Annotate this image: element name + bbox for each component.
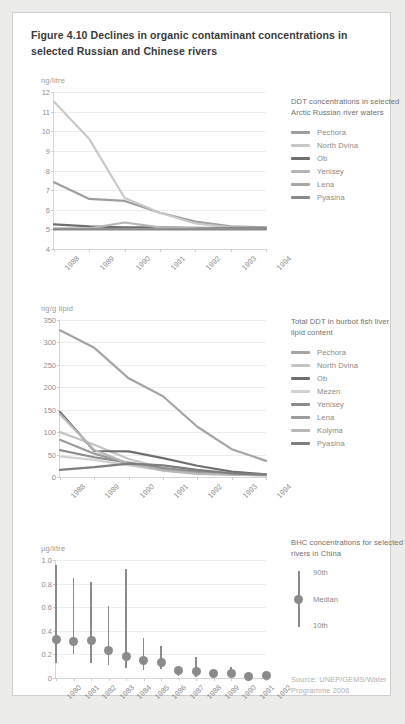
- median-marker: [227, 669, 236, 678]
- grid-line: [56, 607, 266, 608]
- legend-item-label: Pyasina: [317, 439, 345, 448]
- x-tick-label: 1994: [275, 482, 293, 500]
- legend-item-label: Ob: [317, 374, 327, 383]
- y-tick-label: 12: [42, 88, 50, 97]
- legend-item-label: Lena: [317, 413, 334, 422]
- y-tick-label: 0.8: [42, 579, 52, 588]
- x-tick-label: 1991: [172, 482, 190, 500]
- y-tick-label: 250: [43, 360, 56, 369]
- x-tick-mark: [266, 477, 267, 480]
- x-tick-mark: [125, 249, 126, 252]
- chart2-legend: Total DDT in burbot fish liver lipid con…: [291, 316, 403, 450]
- x-tick-label: 1987: [187, 683, 205, 701]
- series-line: [54, 182, 266, 227]
- y-tick-label: 7: [46, 186, 50, 195]
- x-tick-mark: [266, 249, 267, 252]
- legend-item-label: Mezen: [317, 387, 340, 396]
- legend-swatch: [291, 351, 310, 354]
- x-tick-label: 1990: [240, 683, 258, 701]
- chart3-plot-area: 00.20.40.60.81.0198019811982198319841985…: [55, 560, 266, 679]
- median-marker: [209, 669, 218, 678]
- y-tick-label: 200: [43, 383, 56, 392]
- series-layer: [60, 320, 266, 477]
- x-tick-mark: [56, 678, 57, 681]
- legend-item: Lena: [291, 178, 403, 191]
- y-tick-label: 150: [43, 405, 56, 414]
- x-tick-mark: [195, 249, 196, 252]
- x-tick-label: 1993: [240, 254, 258, 272]
- x-tick-mark: [179, 678, 180, 681]
- figure-card: Figure 4.10 Declines in organic contamin…: [12, 12, 391, 696]
- x-tick-label: 1988: [205, 683, 223, 701]
- series-line: [60, 330, 266, 461]
- x-tick-mark: [109, 678, 110, 681]
- legend-swatch: [291, 183, 310, 186]
- y-tick-label: 0.6: [42, 603, 52, 612]
- x-tick-mark: [161, 678, 162, 681]
- chart2-plot-area: 0501001502002503003501988198919901991199…: [59, 320, 266, 478]
- chart2-legend-title: Total DDT in burbot fish liver lipid con…: [291, 316, 403, 339]
- median-marker: [122, 652, 131, 661]
- y-tick-label: 9: [46, 146, 50, 155]
- legend-swatch: [291, 144, 310, 147]
- legend-item: Ob: [291, 152, 403, 165]
- range-whisker: [55, 565, 57, 663]
- legend-item-label: Lena: [317, 180, 334, 189]
- legend-swatch: [291, 157, 310, 160]
- legend-item-label: Pechora: [317, 128, 346, 137]
- legend-item: Yenisey: [291, 165, 403, 178]
- chart1-unit-label: ng/litre: [41, 76, 65, 85]
- x-tick-label: 1989: [103, 482, 121, 500]
- x-tick-label: 1989: [222, 683, 240, 701]
- series-line: [54, 102, 266, 229]
- legend-item: Lena: [291, 411, 403, 424]
- chart2-legend-items: PechoraNorth DvinaObMezenYeniseyLenaKoly…: [291, 346, 403, 450]
- x-tick-label: 1985: [152, 683, 170, 701]
- chart1-legend-items: PechoraNorth DvinaObYeniseyLenaPyasina: [291, 126, 403, 204]
- y-tick-label: 10: [42, 127, 50, 136]
- x-tick-mark: [144, 678, 145, 681]
- y-tick-label: 50: [48, 450, 56, 459]
- x-tick-label: 1993: [241, 482, 259, 500]
- legend-item-label: North Dvina: [317, 361, 358, 370]
- range-key-label-p10: 10th: [313, 621, 328, 630]
- grid-line: [56, 584, 266, 585]
- range-whisker: [108, 606, 110, 665]
- median-marker: [87, 636, 96, 645]
- x-tick-label: 1988: [69, 482, 87, 500]
- legend-item: North Dvina: [291, 359, 403, 372]
- chart1-legend-title: DDT concentrations in selected Arctic Ru…: [291, 96, 403, 119]
- median-marker: [157, 658, 166, 667]
- y-tick-label: 0: [48, 674, 52, 683]
- y-tick-label: 11: [42, 107, 50, 116]
- median-marker: [244, 672, 253, 681]
- x-tick-label: 1986: [170, 683, 188, 701]
- legend-swatch: [291, 442, 310, 445]
- legend-item-label: Kolyma: [317, 426, 343, 435]
- chart3-legend-title: BHC concentrations for selected rivers i…: [291, 537, 403, 560]
- x-tick-label: 1989: [98, 254, 116, 272]
- y-tick-label: 0.2: [42, 650, 52, 659]
- range-key-label-median: Median: [313, 595, 338, 604]
- x-tick-mark: [89, 249, 90, 252]
- median-marker: [192, 667, 201, 676]
- y-tick-label: 4: [46, 245, 50, 254]
- range-key-label-p90: 90th: [313, 568, 328, 577]
- range-whisker: [143, 638, 145, 670]
- x-tick-mark: [231, 249, 232, 252]
- legend-item-label: Yenisey: [317, 167, 344, 176]
- x-tick-mark: [214, 678, 215, 681]
- grid-line: [56, 560, 266, 561]
- y-tick-label: 5: [46, 225, 50, 234]
- x-tick-label: 1991: [169, 254, 187, 272]
- x-tick-mark: [94, 477, 95, 480]
- x-tick-label: 1992: [204, 254, 222, 272]
- y-tick-label: 0.4: [42, 626, 52, 635]
- legend-swatch: [291, 131, 310, 134]
- legend-swatch: [291, 429, 310, 432]
- median-marker: [262, 671, 271, 680]
- x-tick-label: 1992: [206, 482, 224, 500]
- x-tick-label: 1990: [138, 482, 156, 500]
- chart1-legend: DDT concentrations in selected Arctic Ru…: [291, 96, 403, 204]
- chart1-plot-area: 4567891011121988198919901991199219931994: [53, 92, 266, 250]
